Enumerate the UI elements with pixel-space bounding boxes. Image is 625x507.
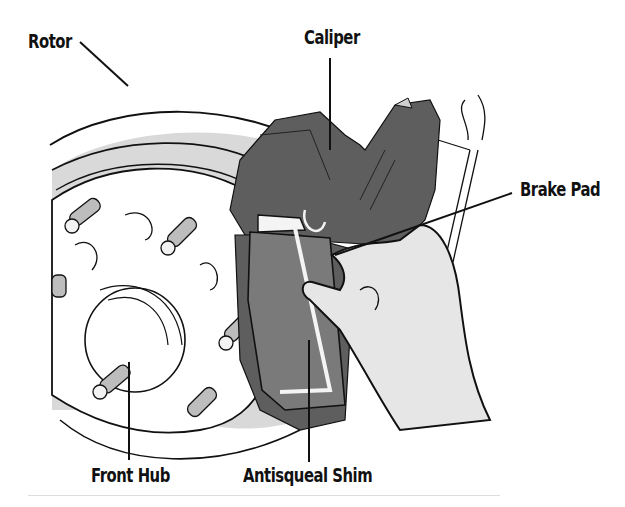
caliper-label: Caliper [304,28,360,47]
brake-assembly-illustration [0,0,625,507]
rotor-leader-line [80,42,128,86]
bottom-rule [28,495,500,496]
antisqueal-shim-label: Antisqueal Shim [243,466,372,485]
front-hub-label: Front Hub [91,466,170,485]
brake-hose [438,95,485,262]
rotor-label: Rotor [28,32,72,51]
brake-pad-label: Brake Pad [520,180,600,199]
